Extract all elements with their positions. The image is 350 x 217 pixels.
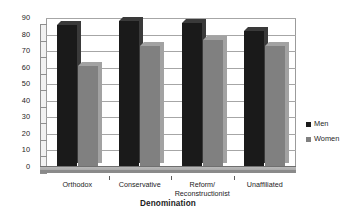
bar-side-face xyxy=(160,42,164,163)
bar-men-0 xyxy=(57,25,77,167)
bar-men-1 xyxy=(119,21,139,167)
legend-label: Women xyxy=(314,135,339,143)
y-axis-tick-labels: 0102030405060708090 xyxy=(12,0,30,217)
plot-floor xyxy=(40,166,296,173)
bar-side-face xyxy=(285,42,289,163)
x-axis-category-label: Unaffiliated xyxy=(226,180,305,189)
y-axis-tick-label: 70 xyxy=(14,47,30,55)
plot-area xyxy=(40,18,296,173)
bar-men-2 xyxy=(182,23,202,167)
legend-swatch-icon xyxy=(306,122,311,127)
y-axis-tick-label: 40 xyxy=(14,97,30,105)
legend-label: Men xyxy=(314,120,328,128)
chart-legend: MenWomen xyxy=(306,118,350,148)
y-axis-tick-label: 80 xyxy=(14,31,30,39)
bar-front-face xyxy=(182,23,202,167)
bar-front-face xyxy=(265,46,285,167)
bar-front-face xyxy=(244,31,264,167)
legend-swatch-icon xyxy=(306,137,311,142)
bar-women-0 xyxy=(78,66,98,167)
y-axis-tick-label: 90 xyxy=(14,14,30,22)
plot-floor-front xyxy=(40,170,296,173)
y-axis-tick-label: 20 xyxy=(14,130,30,138)
bar-women-3 xyxy=(265,46,285,167)
y-axis-tick-label: 50 xyxy=(14,80,30,88)
bar-front-face xyxy=(119,21,139,167)
legend-item-women: Women xyxy=(306,133,350,145)
bar-women-2 xyxy=(203,40,223,167)
y-axis-tick-label: 60 xyxy=(14,64,30,72)
bar-men-3 xyxy=(244,31,264,167)
y-axis-tick-label: 30 xyxy=(14,113,30,121)
y-axis-tick-label: 0 xyxy=(14,163,30,171)
y-axis-tick-label: 10 xyxy=(14,146,30,154)
bar-series-container xyxy=(46,18,296,167)
bar-women-1 xyxy=(140,46,160,167)
bar-front-face xyxy=(140,46,160,167)
bar-front-face xyxy=(203,40,223,167)
y-axis-tick-mark xyxy=(40,173,47,174)
bar-chart-figure: In labor force (%) 0102030405060708090 O… xyxy=(0,0,350,217)
bar-front-face xyxy=(78,66,98,167)
x-axis-title: Denomination xyxy=(40,199,296,208)
bar-side-face xyxy=(223,36,227,163)
bar-front-face xyxy=(57,25,77,167)
legend-item-men: Men xyxy=(306,118,350,130)
bar-side-face xyxy=(98,62,102,163)
